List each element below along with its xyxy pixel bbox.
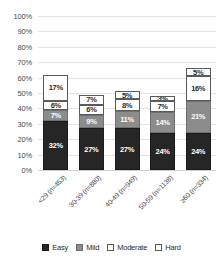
bar-segment-value-label: 24% xyxy=(156,147,170,156)
legend-label: Mild xyxy=(86,243,99,252)
bar-segment-value-label: 27% xyxy=(120,145,134,154)
bar-segment-value-label: 8% xyxy=(122,101,132,110)
bar-segment-value-label: 3% xyxy=(157,96,167,101)
y-axis-tick-label: 100% xyxy=(14,12,32,21)
bar-segment-value-label: 5% xyxy=(122,91,132,99)
bar-segment-value-label: 7% xyxy=(51,111,61,120)
legend-label: Hard xyxy=(165,243,180,252)
bar-segment-value-label: 11% xyxy=(120,115,134,124)
y-axis-tick-label: 80% xyxy=(18,42,32,51)
legend-swatch-icon xyxy=(42,244,49,251)
bar-segment-value-label: 27% xyxy=(84,145,98,154)
bar-column[interactable]: 24%14%7%3% xyxy=(150,96,175,170)
bar-segment-mild[interactable]: 14% xyxy=(150,112,175,134)
bar-segment-value-label: 9% xyxy=(86,117,96,126)
bar-segment-hard[interactable]: 5% xyxy=(115,91,140,99)
axis-baseline xyxy=(38,170,216,171)
x-axis-tick-label: ≥60 (n=334) xyxy=(179,174,209,204)
bars-layer: 32%7%6%17%27%9%6%7%27%11%8%5%24%14%7%3%2… xyxy=(38,16,216,170)
bar-segment-moderate[interactable]: 8% xyxy=(115,99,140,111)
bar-segment-hard[interactable]: 17% xyxy=(43,75,68,101)
bar-segment-easy[interactable]: 24% xyxy=(186,133,211,170)
bar-segment-moderate[interactable]: 7% xyxy=(150,101,175,112)
bar-segment-easy[interactable]: 27% xyxy=(79,128,104,170)
y-axis-tick-label: 20% xyxy=(18,135,32,144)
x-axis: <29 (n=453)30-39 (n=880)40-49 (n=949)50-… xyxy=(38,172,216,230)
bar-segment-easy[interactable]: 24% xyxy=(150,133,175,170)
bar-segment-mild[interactable]: 11% xyxy=(115,111,140,128)
y-axis-tick-label: 90% xyxy=(18,27,32,36)
bar-segment-value-label: 21% xyxy=(191,112,205,121)
legend-label: Moderate xyxy=(117,243,147,252)
bar-column[interactable]: 27%9%6%7% xyxy=(79,95,104,170)
bar-segment-value-label: 32% xyxy=(49,141,63,150)
legend-swatch-icon xyxy=(107,244,114,251)
legend-item-hard[interactable]: Hard xyxy=(155,243,180,252)
chart-legend: EasyMildModerateHard xyxy=(0,243,223,252)
bar-segment-hard[interactable]: 5% xyxy=(186,68,211,76)
x-axis-tick-label: 30-39 (n=880) xyxy=(68,174,102,208)
x-axis-tick-label: <29 (n=453) xyxy=(36,174,66,204)
bar-segment-value-label: 6% xyxy=(86,105,96,114)
y-axis-tick-label: 30% xyxy=(18,119,32,128)
legend-item-mild[interactable]: Mild xyxy=(76,243,99,252)
bar-segment-value-label: 7% xyxy=(157,102,167,111)
bar-segment-value-label: 17% xyxy=(49,83,63,92)
bar-segment-value-label: 5% xyxy=(193,68,203,76)
bar-segment-hard[interactable]: 7% xyxy=(79,95,104,106)
y-axis-tick-label: 50% xyxy=(18,89,32,98)
bar-column[interactable]: 27%11%8%5% xyxy=(115,91,140,170)
bar-segment-value-label: 14% xyxy=(156,118,170,127)
y-axis-tick-label: 0% xyxy=(22,166,32,175)
legend-swatch-icon xyxy=(76,244,83,251)
x-axis-tick-label: 50-59 (n=1138) xyxy=(137,174,174,211)
y-axis: 100%90%80%70%60%50%40%30%20%10%0% xyxy=(0,16,36,170)
bar-segment-mild[interactable]: 9% xyxy=(79,115,104,129)
y-axis-tick-label: 10% xyxy=(18,150,32,159)
legend-swatch-icon xyxy=(155,244,162,251)
bar-segment-mild[interactable]: 21% xyxy=(186,101,211,133)
stacked-bar-chart: 100%90%80%70%60%50%40%30%20%10%0% 32%7%6… xyxy=(0,0,223,269)
bar-segment-mild[interactable]: 7% xyxy=(43,110,68,121)
legend-item-easy[interactable]: Easy xyxy=(42,243,68,252)
legend-label: Easy xyxy=(52,243,68,252)
bar-segment-easy[interactable]: 27% xyxy=(115,128,140,170)
y-axis-tick-label: 40% xyxy=(18,104,32,113)
bar-segment-moderate[interactable]: 6% xyxy=(79,105,104,114)
y-axis-tick-label: 70% xyxy=(18,58,32,67)
bar-segment-value-label: 7% xyxy=(86,95,96,104)
bar-segment-hard[interactable]: 3% xyxy=(150,96,175,101)
bar-column[interactable]: 32%7%6%17% xyxy=(43,75,68,170)
bar-segment-easy[interactable]: 32% xyxy=(43,121,68,170)
bar-segment-value-label: 16% xyxy=(191,84,205,93)
x-axis-tick-label: 40-49 (n=949) xyxy=(104,174,138,208)
legend-item-moderate[interactable]: Moderate xyxy=(107,243,147,252)
y-axis-tick-label: 60% xyxy=(18,73,32,82)
bar-segment-moderate[interactable]: 6% xyxy=(43,101,68,110)
plot-area: 32%7%6%17%27%9%6%7%27%11%8%5%24%14%7%3%2… xyxy=(38,16,216,170)
bar-segment-value-label: 6% xyxy=(51,101,61,110)
bar-column[interactable]: 24%21%16%5% xyxy=(186,68,211,170)
bar-segment-moderate[interactable]: 16% xyxy=(186,76,211,101)
bar-segment-value-label: 24% xyxy=(191,147,205,156)
